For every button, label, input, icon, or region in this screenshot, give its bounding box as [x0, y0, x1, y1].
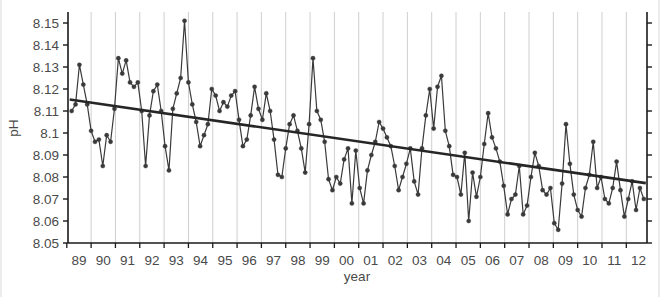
data-point: [568, 162, 572, 166]
data-point: [210, 87, 214, 91]
data-point: [572, 193, 576, 197]
data-point: [459, 193, 463, 197]
data-point: [288, 122, 292, 126]
data-point: [591, 140, 595, 144]
data-point: [171, 107, 175, 111]
data-point: [622, 215, 626, 219]
data-point: [175, 91, 179, 95]
data-point: [77, 63, 81, 67]
data-point: [467, 219, 471, 223]
data-line-pH: [72, 21, 644, 230]
x-tick-label: 10: [582, 253, 597, 268]
data-point: [116, 56, 120, 60]
y-tick-label: 8.14: [33, 38, 60, 53]
data-point: [509, 197, 513, 201]
data-point: [311, 56, 315, 60]
y-tick-label: 8.06: [33, 214, 59, 229]
x-tick-label: 95: [217, 253, 232, 268]
data-point: [264, 91, 268, 95]
y-axis-title: pH: [6, 119, 21, 136]
data-point: [221, 100, 225, 104]
x-tick-label: 04: [436, 253, 452, 268]
data-point: [120, 72, 124, 76]
data-point: [435, 85, 439, 89]
data-point: [579, 215, 583, 219]
x-tick-label: 12: [631, 253, 646, 268]
data-point: [541, 188, 545, 192]
data-point: [136, 80, 140, 84]
x-tick-label: 09: [558, 253, 573, 268]
data-point: [377, 120, 381, 124]
x-tick-label: 06: [485, 253, 500, 268]
data-point: [272, 138, 276, 142]
chart-figure: 8.158.148.138.128.118.18.098.088.078.068…: [0, 0, 660, 297]
data-point: [638, 186, 642, 190]
data-point: [89, 129, 93, 133]
data-point: [529, 175, 533, 179]
data-point: [548, 186, 552, 190]
x-tick-label: 98: [290, 253, 305, 268]
x-tick-label: 89: [71, 253, 86, 268]
y-tick-label: 8.12: [33, 82, 59, 97]
data-point: [105, 133, 109, 137]
data-point: [447, 144, 451, 148]
y-tick-label: 8.13: [33, 60, 59, 75]
x-tick-label: 93: [169, 253, 184, 268]
data-point: [163, 144, 167, 148]
x-tick-label: 01: [363, 253, 378, 268]
y-tick-label: 8.15: [33, 16, 59, 31]
data-point: [190, 102, 194, 106]
data-point: [182, 19, 186, 23]
data-point: [225, 105, 229, 109]
data-point: [237, 118, 241, 122]
data-point: [354, 149, 358, 153]
data-point: [603, 197, 607, 201]
data-point: [73, 102, 77, 106]
data-point: [365, 168, 369, 172]
data-point: [256, 107, 260, 111]
data-point: [521, 212, 525, 216]
data-point: [474, 195, 478, 199]
data-point: [506, 212, 510, 216]
data-point: [198, 144, 202, 148]
y-tick-label: 8.09: [33, 148, 59, 163]
data-point: [260, 118, 264, 122]
x-tick-label: 94: [193, 253, 209, 268]
data-point: [334, 175, 338, 179]
data-point: [299, 146, 303, 150]
data-point: [186, 80, 190, 84]
data-point: [268, 109, 272, 113]
x-tick-label: 08: [534, 253, 549, 268]
data-point: [276, 173, 280, 177]
data-point: [307, 122, 311, 126]
data-point: [128, 80, 132, 84]
data-point: [443, 129, 447, 133]
data-point: [147, 113, 151, 117]
data-point: [525, 204, 529, 208]
data-point: [478, 175, 482, 179]
data-point: [323, 140, 327, 144]
data-point: [326, 177, 330, 181]
x-tick-label: 96: [242, 253, 257, 268]
x-tick-label: 07: [509, 253, 524, 268]
data-point: [393, 164, 397, 168]
data-point: [151, 89, 155, 93]
data-point: [595, 186, 599, 190]
data-point: [206, 122, 210, 126]
y-tick-label: 8.11: [34, 104, 59, 119]
data-point: [576, 208, 580, 212]
data-point: [618, 188, 622, 192]
data-point: [607, 201, 611, 205]
data-point: [439, 74, 443, 78]
data-point: [412, 179, 416, 183]
x-tick-label: 90: [96, 253, 111, 268]
data-point: [303, 171, 307, 175]
data-point: [404, 162, 408, 166]
data-point: [385, 135, 389, 139]
data-point: [291, 113, 295, 117]
data-point: [315, 109, 319, 113]
data-point: [233, 89, 237, 93]
x-tick-label: 05: [461, 253, 476, 268]
data-point: [252, 85, 256, 89]
data-point: [342, 157, 346, 161]
